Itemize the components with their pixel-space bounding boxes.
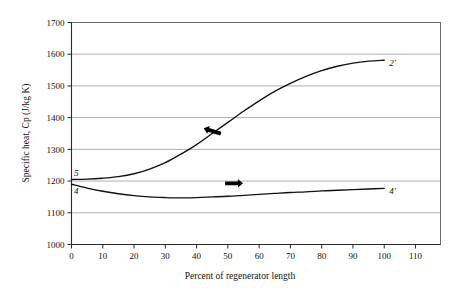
x-tick-label: 50 xyxy=(223,251,233,261)
x-tick-label: 0 xyxy=(69,251,74,261)
data-curves xyxy=(72,60,385,198)
y-tick-marks xyxy=(68,23,72,245)
x-tick-label: 110 xyxy=(409,251,423,261)
x-tick-label: 40 xyxy=(192,251,202,261)
x-tick-label: 20 xyxy=(130,251,140,261)
chart-canvas: 10001100120013001400150016001700 0102030… xyxy=(0,0,464,294)
y-axis-title: Specific heat, Cp (J/kg K) xyxy=(21,58,31,208)
y-tick-label: 1100 xyxy=(47,208,65,218)
x-tick-label: 100 xyxy=(377,251,391,261)
y-tick-label: 1000 xyxy=(47,240,66,250)
y-tick-label: 1400 xyxy=(47,113,66,123)
x-tick-label: 90 xyxy=(348,251,358,261)
gridlines-group xyxy=(72,54,441,213)
x-axis-title: Percent of regenerator length xyxy=(120,271,360,281)
curve-start-label: 4 xyxy=(74,186,79,196)
x-tick-label: 60 xyxy=(255,251,265,261)
curve-end-label: 2' xyxy=(389,58,397,68)
x-tick-label: 70 xyxy=(286,251,296,261)
x-tick-label: 10 xyxy=(98,251,108,261)
y-tick-labels: 10001100120013001400150016001700 xyxy=(47,18,66,250)
y-tick-label: 1200 xyxy=(47,176,66,186)
y-tick-label: 1600 xyxy=(47,49,66,59)
x-tick-label: 80 xyxy=(317,251,327,261)
data-curve-1 xyxy=(72,60,385,179)
y-tick-label: 1500 xyxy=(47,81,66,91)
curve-end-label: 4' xyxy=(389,186,397,196)
curve-start-label: 5 xyxy=(74,168,79,178)
plot-frame xyxy=(72,23,441,245)
x-tick-marks xyxy=(72,245,416,249)
y-tick-label: 1300 xyxy=(47,145,66,155)
x-tick-labels: 0102030405060708090100110 xyxy=(69,251,422,261)
y-tick-label: 1700 xyxy=(47,18,66,28)
flow-arrow-right xyxy=(225,179,243,187)
x-tick-label: 30 xyxy=(161,251,171,261)
data-curve-2 xyxy=(72,184,385,198)
chart-figure: 10001100120013001400150016001700 0102030… xyxy=(0,0,464,294)
